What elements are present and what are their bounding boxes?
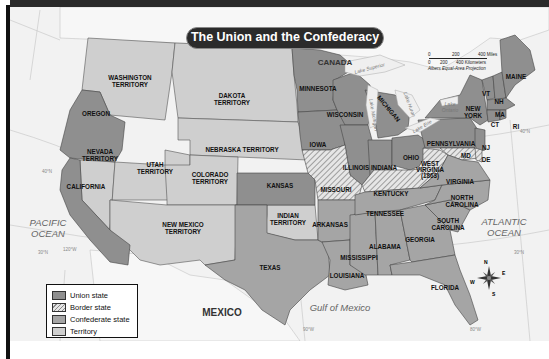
label-georgia: GEORGIA bbox=[405, 236, 435, 243]
label-ohio: OHIO bbox=[403, 154, 419, 161]
label-120w: 120°W bbox=[63, 247, 77, 252]
scale-line bbox=[429, 58, 487, 59]
label-gulf: Gulf of Mexico bbox=[310, 302, 371, 313]
label-canada: CANADA bbox=[318, 58, 353, 67]
map-legend: Union state Border state Confederate sta… bbox=[46, 284, 138, 338]
legend-union-label: Union state bbox=[70, 291, 108, 300]
territory-swatch bbox=[52, 327, 66, 336]
label-dakota: DAKOTA bbox=[219, 92, 246, 99]
label-kansas: KANSAS bbox=[267, 182, 294, 189]
label-30n-west: 30°N bbox=[38, 250, 48, 255]
scale-km-0: 0 bbox=[428, 60, 431, 65]
scale-km-200: 200 bbox=[440, 60, 448, 65]
label-indian-2: TERRITORY bbox=[270, 219, 307, 226]
label-pacific-2: OCEAN bbox=[31, 228, 65, 239]
label-west-virginia-3: (1863) bbox=[421, 172, 439, 180]
label-new-mexico: NEW MEXICO bbox=[162, 221, 203, 228]
label-washington: WASHINGTON bbox=[108, 74, 152, 81]
label-kentucky: KENTUCKY bbox=[374, 190, 410, 197]
label-ri: RI bbox=[513, 123, 520, 130]
label-nevada: NEVADA bbox=[87, 148, 114, 155]
scale-mile-400: 400 Miles bbox=[478, 52, 497, 57]
scale-mile-0: 0 bbox=[428, 52, 431, 57]
label-new-york-2: YORK bbox=[464, 112, 483, 119]
label-minnesota: MINNESOTA bbox=[299, 85, 337, 92]
label-lake-ontario-2: Ontario bbox=[442, 107, 459, 113]
label-md: MD bbox=[461, 152, 471, 159]
compass-n: N bbox=[484, 259, 488, 265]
legend-confederate: Confederate state bbox=[52, 313, 137, 325]
nebraska-territory[interactable] bbox=[178, 118, 308, 160]
label-tennessee: TENNESSEE bbox=[366, 210, 404, 217]
scale-projection: Albers Equal-Area Projection bbox=[428, 66, 486, 71]
label-nh: NH bbox=[494, 98, 504, 105]
maine[interactable] bbox=[500, 35, 535, 98]
label-utah: UTAH bbox=[146, 161, 163, 168]
label-nj: NJ bbox=[482, 144, 491, 151]
label-nevada-2: TERRITORY bbox=[82, 155, 119, 162]
label-south-carolina-2: CAROLINA bbox=[431, 224, 465, 231]
compass-rose: N E W S bbox=[470, 259, 506, 297]
label-ma: MA bbox=[495, 111, 505, 118]
legend-border: Border state bbox=[52, 301, 137, 313]
compass-s: S bbox=[492, 291, 496, 297]
label-pennsylvania: PENNSYLVANIA bbox=[427, 140, 476, 147]
label-mexico: MEXICO bbox=[202, 307, 242, 318]
legend-union: Union state bbox=[52, 289, 137, 301]
label-illinois: ILLINOIS bbox=[343, 164, 370, 171]
label-virginia: VIRGINIA bbox=[446, 178, 474, 185]
legend-confederate-label: Confederate state bbox=[70, 315, 130, 324]
label-colorado-2: TERRITORY bbox=[192, 178, 229, 185]
label-oregon: OREGON bbox=[82, 110, 110, 117]
label-maine: MAINE bbox=[506, 73, 526, 80]
legend-territory: Territory bbox=[52, 325, 137, 337]
label-new-mexico-2: TERRITORY bbox=[165, 228, 202, 235]
label-40n-west: 40°N bbox=[42, 169, 52, 174]
label-mississippi: MISSISSIPPI bbox=[340, 254, 378, 261]
union-swatch bbox=[52, 291, 66, 300]
bottom-margin bbox=[10, 341, 549, 359]
legend-border-label: Border state bbox=[70, 303, 111, 312]
scale-km-400: 400 Kilometers bbox=[456, 60, 486, 65]
label-california: CALIFORNIA bbox=[67, 183, 106, 190]
label-atlantic-2: OCEAN bbox=[487, 227, 521, 238]
label-indiana: INDIANA bbox=[371, 164, 398, 171]
label-iowa: IOWA bbox=[310, 141, 327, 148]
scale-bar: 0 200 400 Miles 0 200 400 Kilometers Alb… bbox=[428, 52, 498, 74]
label-north-carolina: NORTH bbox=[451, 194, 474, 201]
kansas[interactable] bbox=[237, 173, 315, 205]
label-texas: TEXAS bbox=[260, 264, 281, 271]
scale-mile-200: 200 bbox=[452, 52, 460, 57]
label-florida: FLORIDA bbox=[431, 284, 459, 291]
compass-e: E bbox=[502, 270, 506, 276]
left-frame-bar bbox=[6, 5, 10, 359]
dakota-territory[interactable] bbox=[172, 43, 298, 122]
label-40n-east: 40°N bbox=[520, 129, 530, 134]
legend-territory-label: Territory bbox=[70, 327, 97, 336]
label-south-carolina: SOUTH bbox=[437, 217, 459, 224]
label-30n-east: 30°N bbox=[514, 250, 524, 255]
label-vt: VT bbox=[482, 90, 490, 97]
label-arkansas: ARKANSAS bbox=[312, 221, 348, 228]
label-atlantic: ATLANTIC bbox=[480, 216, 526, 227]
label-colorado: COLORADO bbox=[192, 171, 229, 178]
label-ct: CT bbox=[491, 121, 500, 128]
compass-w: W bbox=[470, 279, 475, 285]
map-title: The Union and the Confederacy bbox=[186, 27, 384, 49]
label-alabama: ALABAMA bbox=[369, 243, 401, 250]
label-louisiana: LOUISIANA bbox=[330, 272, 365, 279]
border-swatch bbox=[52, 303, 66, 312]
label-80w: 80°W bbox=[470, 327, 482, 332]
label-washington-2: TERRITORY bbox=[112, 81, 149, 88]
confederate-swatch bbox=[52, 315, 66, 324]
top-frame-bar bbox=[0, 0, 549, 7]
label-pacific: PACIFIC bbox=[30, 217, 67, 228]
label-de: DE bbox=[482, 156, 491, 163]
label-nebraska: NEBRASKA TERRITORY bbox=[205, 146, 279, 153]
label-missouri: MISSOURI bbox=[320, 186, 351, 193]
label-new-york: NEW bbox=[466, 105, 481, 112]
label-wisconsin: WISCONSIN bbox=[327, 111, 364, 118]
label-utah-2: TERRITORY bbox=[137, 168, 174, 175]
label-90w: 90°W bbox=[303, 327, 315, 332]
label-dakota-2: TERRITORY bbox=[214, 99, 251, 106]
